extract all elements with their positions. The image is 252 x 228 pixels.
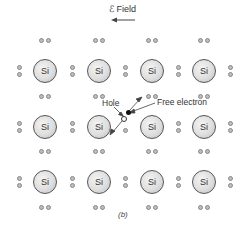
valence-electron bbox=[17, 65, 22, 70]
field-arrow-icon bbox=[111, 18, 135, 23]
valence-electron bbox=[100, 38, 105, 43]
valence-electron bbox=[176, 121, 181, 126]
valence-electron bbox=[46, 94, 51, 99]
valence-electron bbox=[146, 94, 151, 99]
si-atom: Si bbox=[33, 170, 57, 194]
valence-electron bbox=[228, 65, 233, 70]
valence-electron bbox=[228, 183, 233, 188]
valence-electron bbox=[70, 65, 75, 70]
valence-electron bbox=[100, 205, 105, 210]
si-atom: Si bbox=[33, 115, 57, 139]
valence-electron bbox=[228, 176, 233, 181]
valence-electron bbox=[123, 128, 128, 133]
valence-electron bbox=[70, 121, 75, 126]
valence-electron bbox=[205, 38, 210, 43]
valence-electron bbox=[93, 94, 98, 99]
valence-electron bbox=[70, 72, 75, 77]
valence-electron bbox=[17, 128, 22, 133]
si-atom: Si bbox=[87, 170, 111, 194]
atom-symbol: Si bbox=[148, 66, 156, 76]
si-atom: Si bbox=[192, 59, 216, 83]
valence-electron bbox=[176, 65, 181, 70]
valence-electron bbox=[93, 205, 98, 210]
valence-electron bbox=[123, 183, 128, 188]
si-atom: Si bbox=[140, 59, 164, 83]
valence-electron bbox=[39, 149, 44, 154]
valence-electron bbox=[146, 38, 151, 43]
valence-electron bbox=[39, 38, 44, 43]
valence-electron bbox=[228, 128, 233, 133]
valence-electron bbox=[46, 149, 51, 154]
valence-electron bbox=[146, 205, 151, 210]
si-atom: Si bbox=[140, 115, 164, 139]
atom-symbol: Si bbox=[200, 66, 208, 76]
hole-icon bbox=[121, 116, 127, 122]
valence-electron bbox=[70, 128, 75, 133]
atom-symbol: Si bbox=[41, 177, 49, 187]
valence-electron bbox=[205, 205, 210, 210]
valence-electron bbox=[123, 72, 128, 77]
si-atom: Si bbox=[140, 170, 164, 194]
valence-electron bbox=[123, 65, 128, 70]
valence-electron bbox=[17, 72, 22, 77]
valence-electron bbox=[70, 183, 75, 188]
atom-symbol: Si bbox=[41, 66, 49, 76]
valence-electron bbox=[153, 149, 158, 154]
free-electron-icon bbox=[126, 110, 131, 115]
valence-electron bbox=[93, 149, 98, 154]
valence-electron bbox=[228, 72, 233, 77]
valence-electron bbox=[228, 121, 233, 126]
figure-caption: (b) bbox=[118, 210, 128, 219]
valence-electron bbox=[176, 128, 181, 133]
valence-electron bbox=[198, 149, 203, 154]
valence-electron bbox=[205, 149, 210, 154]
hole-label: Hole bbox=[102, 98, 119, 108]
valence-electron bbox=[123, 176, 128, 181]
valence-electron bbox=[93, 38, 98, 43]
valence-electron bbox=[198, 38, 203, 43]
valence-electron bbox=[39, 94, 44, 99]
valence-electron bbox=[46, 205, 51, 210]
si-atom: Si bbox=[33, 59, 57, 83]
valence-electron bbox=[198, 205, 203, 210]
valence-electron bbox=[70, 176, 75, 181]
valence-electron bbox=[176, 72, 181, 77]
valence-electron bbox=[176, 176, 181, 181]
valence-electron bbox=[176, 183, 181, 188]
atom-symbol: Si bbox=[200, 177, 208, 187]
atom-symbol: Si bbox=[148, 177, 156, 187]
valence-electron bbox=[17, 183, 22, 188]
atom-symbol: Si bbox=[41, 122, 49, 132]
valence-electron bbox=[153, 38, 158, 43]
valence-electron bbox=[146, 149, 151, 154]
si-atom: Si bbox=[87, 59, 111, 83]
si-atom: Si bbox=[192, 115, 216, 139]
valence-electron bbox=[46, 38, 51, 43]
valence-electron bbox=[17, 121, 22, 126]
valence-electron bbox=[17, 176, 22, 181]
atom-symbol: Si bbox=[200, 122, 208, 132]
si-atom: Si bbox=[192, 170, 216, 194]
atom-symbol: Si bbox=[148, 122, 156, 132]
atom-symbol: Si bbox=[95, 177, 103, 187]
free-electron-label: Free electron bbox=[157, 97, 207, 107]
si-atom: Si bbox=[87, 115, 111, 139]
atom-symbol: Si bbox=[95, 122, 103, 132]
valence-electron bbox=[100, 149, 105, 154]
atom-symbol: Si bbox=[95, 66, 103, 76]
valence-electron bbox=[39, 205, 44, 210]
valence-electron bbox=[153, 205, 158, 210]
